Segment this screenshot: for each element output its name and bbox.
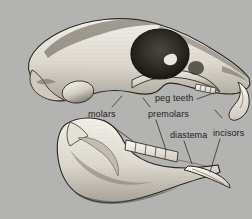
skull-diagram-figure: molars peg teeth premolars diastema inci… — [0, 0, 252, 219]
label-peg-teeth: peg teeth — [155, 93, 193, 103]
label-diastema: diastema — [170, 130, 207, 140]
infraorbital-foramen — [188, 61, 204, 75]
orbit-texture — [134, 32, 186, 76]
skull-illustration — [0, 0, 252, 219]
label-incisors: incisors — [213, 128, 244, 138]
label-molars: molars — [88, 109, 116, 119]
label-premolars: premolars — [148, 109, 189, 119]
